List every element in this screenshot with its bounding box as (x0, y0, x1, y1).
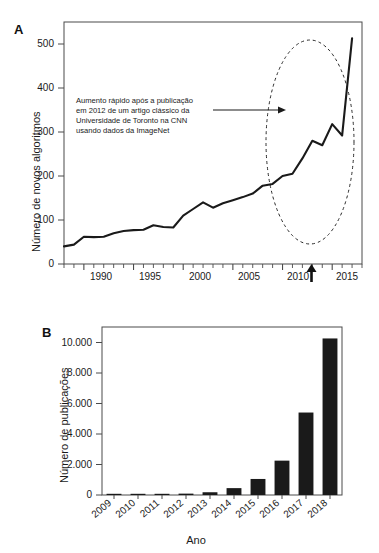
annotation-line-1: Aumento rápido após a publicação (76, 96, 193, 105)
panel-a-y-axis: 0 100 200 300 400 500 (37, 38, 64, 269)
panel-a-xtick-2015: 2015 (336, 271, 359, 282)
annotation-line-2: em 2012 de um artigo clássico da (76, 106, 190, 115)
annotation-line-3: Universidade de Toronto na CNN (76, 116, 187, 125)
panel-b-bar (275, 461, 290, 495)
panel-b-ytick-6000: 6.000 (67, 398, 92, 409)
panel-b-xtick-label: 2012 (161, 497, 185, 520)
panel-a-xtick-2010: 2010 (287, 271, 310, 282)
panel-a-xtick-2000: 2000 (189, 271, 212, 282)
panel-b-bar (299, 413, 314, 495)
panel-b-xtick-label: 2015 (233, 497, 257, 520)
panel-b-ytick-0: 0 (86, 489, 92, 500)
panel-a-ytick-200: 200 (37, 170, 54, 181)
panel-b-bar (131, 494, 146, 495)
panel-b-x-axis: 2009201020112012201320142015201620172018 (89, 495, 330, 520)
annotation-line-4: usando dados da ImageNet (76, 126, 170, 135)
panel-b-xtick-label: 2009 (89, 497, 113, 520)
panel-a-ytick-400: 400 (37, 82, 54, 93)
panel-b-y-axis: 0 2.000 4.000 6.000 8.000 10.000 (61, 337, 102, 501)
panel-a-plot: 0 100 200 300 400 500 1990 1995 2000 200… (0, 0, 379, 300)
panel-a-xtick-1990: 1990 (90, 271, 113, 282)
panel-a-x-axis (64, 264, 362, 270)
panel-b-bar (227, 488, 242, 495)
panel-a-ytick-500: 500 (37, 38, 54, 49)
panel-b-bar (203, 492, 218, 495)
panel-a-ytick-100: 100 (37, 214, 54, 225)
panel-b-xtick-label: 2014 (209, 497, 233, 520)
figure-root: A Número de novos algoritmos 0 100 200 3… (0, 0, 379, 553)
panel-b-bar (323, 338, 338, 495)
panel-b-bar (251, 479, 266, 495)
panel-b-ytick-10000: 10.000 (61, 337, 92, 348)
panel-a-ytick-0: 0 (48, 258, 54, 269)
panel-b-xtick-label: 2011 (138, 497, 162, 520)
panel-b-xtick-label: 2013 (185, 497, 209, 520)
panel-b-ytick-2000: 2.000 (67, 459, 92, 470)
panel-b-xtick-label: 2017 (281, 497, 305, 520)
panel-b-bar (107, 494, 122, 495)
panel-b-ytick-8000: 8.000 (67, 367, 92, 378)
panel-b-plot: 0 2.000 4.000 6.000 8.000 10.000 2009201… (0, 300, 379, 553)
panel-a-ytick-300: 300 (37, 126, 54, 137)
panel-a-xtick-1995: 1995 (139, 271, 162, 282)
panel-b-bar (179, 494, 194, 495)
panel-b-ytick-4000: 4.000 (67, 428, 92, 439)
panel-b-xtick-label: 2018 (305, 497, 329, 520)
panel-b-xtick-label: 2016 (257, 497, 281, 520)
panel-b-xtick-label: 2010 (113, 497, 137, 520)
panel-b-bar (155, 494, 170, 495)
panel-a-xtick-2005: 2005 (238, 271, 261, 282)
